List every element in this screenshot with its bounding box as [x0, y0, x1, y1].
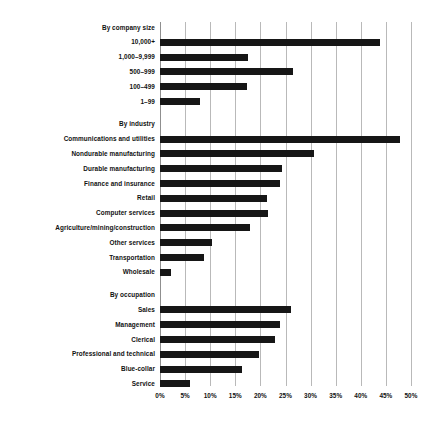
gridline	[235, 22, 236, 386]
bar	[160, 98, 200, 105]
bar	[160, 321, 280, 328]
category-label: Blue-collar	[0, 366, 155, 372]
bar	[160, 269, 171, 276]
category-label: 500–999	[0, 69, 155, 75]
bar	[160, 68, 293, 75]
category-label: Transportation	[0, 255, 155, 261]
gridline	[361, 22, 362, 386]
category-label: Clerical	[0, 337, 155, 343]
bar-chart: By company size10,000+1,000–9,999500–999…	[0, 0, 440, 422]
category-label: 1–99	[0, 99, 155, 105]
category-label: Nondurable manufacturing	[0, 151, 155, 157]
category-label: Agriculture/mining/construction	[0, 225, 155, 231]
section-heading: By industry	[0, 121, 155, 127]
category-label: Finance and insurance	[0, 181, 155, 187]
category-label: Communications and utilities	[0, 136, 155, 142]
category-label: Sales	[0, 307, 155, 313]
bar	[160, 366, 242, 373]
gridline	[311, 22, 312, 386]
gridline	[411, 22, 412, 386]
category-label: Retail	[0, 195, 155, 201]
category-label: 10,000+	[0, 39, 155, 45]
bar	[160, 306, 291, 313]
gridline	[185, 22, 186, 386]
plot-area	[160, 22, 411, 386]
category-label: Service	[0, 381, 155, 387]
bar	[160, 351, 259, 358]
gridline	[336, 22, 337, 386]
category-label: Management	[0, 322, 155, 328]
category-label: Computer services	[0, 210, 155, 216]
bar	[160, 150, 314, 157]
category-label: 1,000–9,999	[0, 54, 155, 60]
category-label: Other services	[0, 240, 155, 246]
gridline	[386, 22, 387, 386]
bar	[160, 54, 248, 61]
bar	[160, 210, 268, 217]
category-label: Professional and technical	[0, 351, 155, 357]
bar	[160, 195, 267, 202]
bar	[160, 83, 247, 90]
bar	[160, 336, 275, 343]
bar	[160, 180, 280, 187]
bar	[160, 136, 400, 143]
category-label: Durable manufacturing	[0, 166, 155, 172]
category-label: Wholesale	[0, 269, 155, 275]
bar	[160, 380, 190, 387]
bar	[160, 165, 282, 172]
category-label: 100–499	[0, 84, 155, 90]
gridline	[210, 22, 211, 386]
section-heading: By company size	[0, 25, 155, 31]
bar	[160, 239, 212, 246]
gridline	[260, 22, 261, 386]
section-heading: By occupation	[0, 292, 155, 298]
gridline	[286, 22, 287, 386]
x-tick-label: 50%	[396, 392, 426, 399]
bar	[160, 224, 250, 231]
bar	[160, 39, 380, 46]
y-axis-line	[160, 22, 161, 386]
bar	[160, 254, 204, 261]
